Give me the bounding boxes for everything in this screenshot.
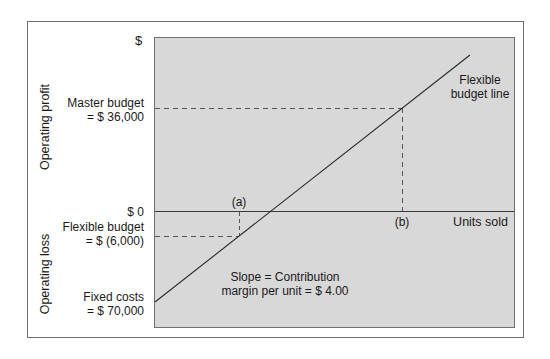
operating-profit-axis-label: Operating profit <box>38 84 52 170</box>
master-budget-label: Master budget = $ 36,000 <box>50 96 144 124</box>
fixed-costs-label: Fixed costs = $ 70,000 <box>50 290 144 318</box>
flexible-budget-label-line2: = $ (6,000) <box>50 234 144 248</box>
fixed-costs-label-line2: = $ 70,000 <box>50 304 144 318</box>
flexible-budget-label-line1: Flexible budget <box>50 220 144 234</box>
zero-label: $ 0 <box>90 205 144 219</box>
flexible-budget-line-label-2: budget line <box>440 87 520 101</box>
fixed-costs-label-line1: Fixed costs <box>50 290 144 304</box>
operating-loss-axis-label: Operating loss <box>38 234 52 315</box>
slope-annotation: Slope = Contribution margin per unit = $… <box>190 270 380 298</box>
flexible-budget-label: Flexible budget = $ (6,000) <box>50 220 144 248</box>
flexible-budget-line-label-1: Flexible <box>440 73 520 87</box>
point-b-label: (b) <box>387 215 417 229</box>
slope-annotation-line1: Slope = Contribution <box>190 270 380 284</box>
flexible-budget-line <box>155 55 470 302</box>
master-budget-label-line1: Master budget <box>50 96 144 110</box>
flexible-budget-line-label: Flexible budget line <box>440 73 520 101</box>
slope-annotation-line2: margin per unit = $ 4.00 <box>190 284 380 298</box>
y-axis-unit-label: $ <box>135 34 142 48</box>
x-axis-label: Units sold <box>430 215 508 229</box>
point-a-label: (a) <box>224 195 254 209</box>
master-budget-label-line2: = $ 36,000 <box>50 110 144 124</box>
